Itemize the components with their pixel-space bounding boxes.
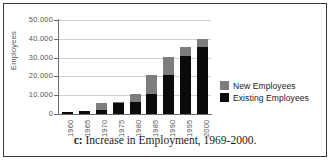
bar-group [180, 47, 191, 114]
bar-group [163, 57, 174, 114]
x-tick-label: 1975 [117, 107, 126, 137]
legend-item: Existing Employees [220, 92, 309, 103]
y-tick-mark [54, 58, 59, 59]
bar-segment-new-employees [146, 75, 157, 95]
y-axis-title: Employees [9, 21, 18, 81]
bar-segment-existing-employees [197, 47, 208, 114]
bars-container [59, 20, 211, 114]
x-tick-label: 1995 [185, 107, 194, 137]
x-tick-label: 1990 [168, 107, 177, 137]
x-tick-label: 1985 [151, 107, 160, 137]
x-tick-label: 1970 [100, 107, 109, 137]
x-tick-label: 1965 [83, 107, 92, 137]
gridline [59, 20, 211, 21]
y-tick-mark [54, 39, 59, 40]
legend-swatch [220, 81, 229, 90]
gridline [59, 39, 211, 40]
y-tick-label: 0 [9, 110, 53, 118]
y-tick-mark [54, 76, 59, 77]
caption-text: Increase in Employment, 1969-2000. [83, 134, 257, 146]
figure-frame: 50.00040.00030.00020.00010.0000 Employee… [3, 3, 327, 157]
y-tick-mark [54, 95, 59, 96]
chart-legend: New EmployeesExisting Employees [220, 80, 309, 104]
bar-segment-new-employees [130, 94, 141, 102]
y-tick-mark [54, 20, 59, 21]
legend-swatch [220, 93, 229, 102]
legend-label: Existing Employees [233, 93, 309, 103]
y-tick-label: 10.000 [9, 91, 53, 99]
x-tick-label: 1960 [66, 107, 75, 137]
figure-caption: c: Increase in Employment, 1969-2000. [4, 134, 326, 146]
bar-segment-new-employees [197, 39, 208, 47]
caption-tag: c: [74, 134, 83, 146]
x-tick-label: 1980 [134, 107, 143, 137]
legend-item: New Employees [220, 80, 309, 91]
y-tick-mark [54, 114, 59, 115]
bar-group [197, 39, 208, 114]
bar-segment-new-employees [163, 57, 174, 76]
legend-label: New Employees [233, 81, 296, 91]
bar-segment-new-employees [180, 47, 191, 55]
chart-plot-area: 50.00040.00030.00020.00010.0000 Employee… [4, 4, 328, 136]
x-tick-label: 2000 [202, 107, 211, 137]
bar-segment-existing-employees [180, 56, 191, 114]
